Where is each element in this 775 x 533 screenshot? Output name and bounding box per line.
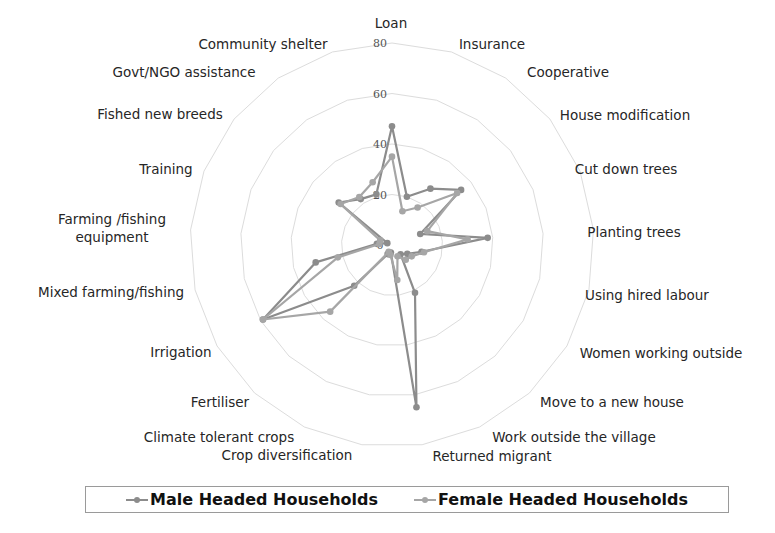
- data-point: [427, 185, 434, 192]
- data-point: [327, 308, 334, 315]
- data-point: [454, 190, 461, 197]
- category-label: Women working outside: [580, 345, 743, 361]
- category-label: Climate tolerant crops: [144, 429, 294, 445]
- data-point: [412, 289, 419, 296]
- data-point: [414, 204, 421, 211]
- radial-tick-label: 40: [373, 138, 387, 151]
- category-label: Fished new breeds: [97, 106, 223, 122]
- data-point: [335, 254, 342, 261]
- data-point: [384, 240, 391, 247]
- data-point: [408, 253, 415, 260]
- legend-marker-icon: [414, 495, 436, 505]
- grid-ring: [342, 195, 443, 295]
- data-point: [377, 237, 384, 244]
- data-point: [413, 404, 420, 411]
- radial-tick-label: 80: [373, 37, 387, 50]
- data-point: [417, 231, 424, 238]
- data-point: [464, 236, 471, 243]
- category-label: Cut down trees: [575, 161, 677, 177]
- data-point: [394, 277, 401, 284]
- category-label: Crop diversification: [222, 447, 353, 463]
- chart-legend: Male Headed Households Female Headed Hou…: [85, 486, 729, 513]
- grid-ring: [191, 43, 594, 445]
- radar-series: [260, 123, 491, 411]
- category-label: Move to a new house: [540, 394, 684, 410]
- radial-tick-labels: 020406080: [373, 37, 387, 252]
- data-point: [260, 316, 267, 323]
- grid-ring: [241, 94, 543, 395]
- category-label: Farming /fishingequipment: [58, 211, 166, 245]
- category-label: Mixed farming/fishing: [38, 284, 184, 300]
- category-label: Loan: [375, 15, 407, 31]
- radial-tick-label: 60: [373, 88, 387, 101]
- category-label: Training: [138, 161, 192, 177]
- data-point: [424, 228, 431, 235]
- category-label: Cooperative: [527, 64, 609, 80]
- category-labels: LoanInsuranceCooperativeHouse modificati…: [38, 15, 742, 464]
- data-point: [394, 253, 401, 260]
- category-label: Fertiliser: [191, 394, 250, 410]
- data-point: [369, 179, 376, 186]
- legend-item-male: Male Headed Households: [126, 490, 378, 509]
- legend-label: Female Headed Households: [438, 490, 688, 509]
- category-label: Planting trees: [587, 224, 680, 240]
- category-label: Irrigation: [150, 344, 211, 360]
- data-point: [484, 235, 491, 242]
- data-point: [389, 153, 396, 160]
- radar-grid: [191, 43, 594, 445]
- data-point: [404, 193, 411, 200]
- data-point: [385, 249, 392, 256]
- data-point: [421, 249, 428, 256]
- category-label: Returned migrant: [432, 448, 551, 464]
- data-point: [389, 123, 396, 130]
- data-point: [312, 259, 319, 266]
- data-point: [402, 257, 409, 264]
- data-point: [337, 201, 344, 208]
- data-point: [399, 208, 406, 215]
- data-point: [356, 194, 363, 201]
- category-label: Using hired labour: [585, 287, 709, 303]
- legend-label: Male Headed Households: [150, 490, 378, 509]
- category-label: Work outside the village: [492, 429, 655, 445]
- category-label: Govt/NGO assistance: [112, 64, 255, 80]
- series-line: [263, 157, 468, 320]
- category-label: Insurance: [459, 36, 525, 52]
- category-label: Community shelter: [198, 36, 328, 52]
- grid-ring: [291, 144, 492, 345]
- legend-item-female: Female Headed Households: [414, 490, 688, 509]
- legend-marker-icon: [126, 495, 148, 505]
- category-label: House modification: [560, 107, 690, 123]
- data-point: [373, 191, 380, 198]
- radar-chart: 020406080 LoanInsuranceCooperativeHouse …: [0, 0, 775, 533]
